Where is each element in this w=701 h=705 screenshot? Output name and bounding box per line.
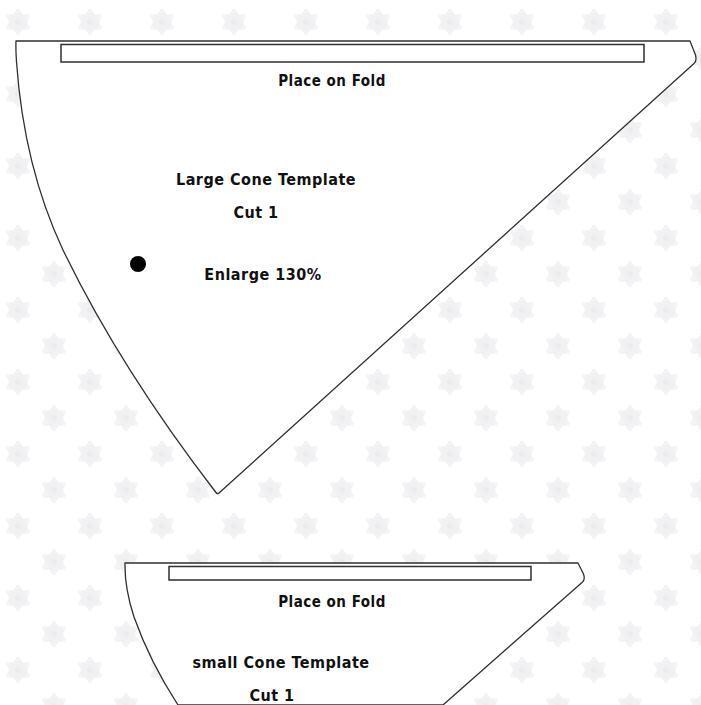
large-cone-shape: [16, 41, 696, 494]
large-cone-name-label: Large Cone Template: [176, 170, 356, 189]
small-cone-shape: [125, 563, 584, 705]
large-cone-place-on-fold-label: Place on Fold: [278, 72, 386, 90]
large-cone-enlarge-label: Enlarge 130%: [204, 265, 321, 284]
small-cone-cut-label: Cut 1: [249, 686, 294, 705]
large-cone-outline: [16, 41, 696, 494]
small-cone-outline: [125, 563, 584, 705]
large-cone-registration-dot: [130, 256, 146, 272]
pattern-sheet-page: Place on Fold Large Cone Template Cut 1 …: [0, 0, 701, 705]
small-cone-name-label: small Cone Template: [192, 653, 369, 672]
small-cone-place-on-fold-label: Place on Fold: [278, 593, 386, 611]
large-cone-cut-label: Cut 1: [233, 203, 278, 222]
